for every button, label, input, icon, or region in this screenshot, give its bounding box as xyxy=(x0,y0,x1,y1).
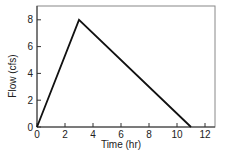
x-ticks: 024681012 xyxy=(34,123,211,140)
y-ticks: 02468 xyxy=(27,14,41,132)
plot-frame xyxy=(37,6,215,127)
x-tick-label: 10 xyxy=(171,129,183,140)
y-tick-label: 8 xyxy=(27,14,33,25)
x-tick-label: 4 xyxy=(90,129,96,140)
x-tick-label: 8 xyxy=(146,129,152,140)
x-tick-label: 0 xyxy=(34,129,40,140)
y-tick-label: 0 xyxy=(27,122,33,133)
x-tick-label: 2 xyxy=(62,129,68,140)
y-tick-label: 2 xyxy=(27,95,33,106)
x-axis-label: Time (hr) xyxy=(101,139,141,150)
hydrograph-chart: 024681012 02468 Time (hr) Flow (cfs) xyxy=(0,0,226,158)
data-series xyxy=(37,20,191,127)
hydrograph-line xyxy=(37,20,191,127)
y-tick-label: 6 xyxy=(27,41,33,52)
y-axis-label: Flow (cfs) xyxy=(7,54,18,97)
y-tick-label: 4 xyxy=(27,68,33,79)
x-tick-label: 12 xyxy=(199,129,211,140)
